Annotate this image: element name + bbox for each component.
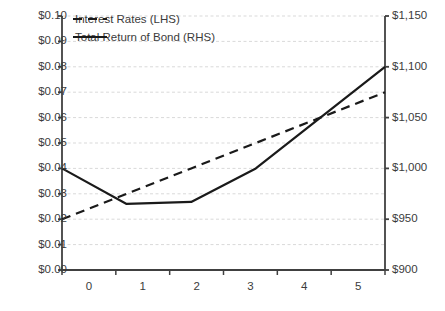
left-axis-tick-label: $0.06: [38, 112, 67, 124]
right-axis-tick-label: $1,100: [392, 61, 427, 73]
left-axis-tick-label: $0.02: [38, 213, 67, 225]
x-axis-tick-label: 4: [284, 281, 324, 293]
left-axis-tick-label: $0.08: [38, 61, 67, 73]
left-axis-tick-label: $0.03: [38, 188, 67, 200]
left-axis-tick-label: $0.10: [38, 10, 67, 22]
x-axis-tick-label: 1: [123, 281, 163, 293]
legend-item-total-return: Total Return of Bond (RHS): [72, 31, 215, 45]
x-axis-tick-label: 0: [69, 281, 109, 293]
right-axis-tick-label: $900: [392, 264, 418, 276]
left-axis-tick-label: $0.09: [38, 35, 67, 47]
left-axis-tick-label: $0.01: [38, 239, 67, 251]
left-axis-tick-label: $0.07: [38, 86, 67, 98]
left-axis-tick-label: $0.05: [38, 137, 67, 149]
x-axis-tick-label: 3: [230, 281, 270, 293]
series-line-total-return: [62, 67, 385, 204]
x-axis-tick-label: 5: [338, 281, 378, 293]
solid-line-icon: [72, 31, 108, 43]
left-axis-tick-label: $0.04: [38, 162, 67, 174]
right-axis-tick-label: $1,000: [392, 162, 427, 174]
series-line-interest-rates: [62, 92, 385, 219]
right-axis-tick-label: $1,050: [392, 112, 427, 124]
right-axis-tick-label: $1,150: [392, 10, 427, 22]
x-axis-tick-label: 2: [177, 281, 217, 293]
right-axis-tick-label: $950: [392, 213, 418, 225]
chart-container: $0.00$0.01$0.02$0.03$0.04$0.05$0.06$0.07…: [0, 0, 445, 311]
legend-item-interest-rates: Interest Rates (LHS): [72, 13, 180, 27]
dashed-line-icon: [72, 13, 108, 25]
left-axis-tick-label: $0.00: [38, 264, 67, 276]
